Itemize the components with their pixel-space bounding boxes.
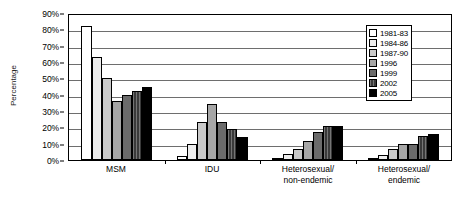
bar[interactable] — [122, 95, 132, 160]
y-axis-tick-label: 50% — [42, 74, 59, 84]
legend-item-label: 1984-86 — [380, 39, 408, 48]
legend-item[interactable]: 1999 — [369, 68, 408, 78]
legend-swatch-icon — [369, 59, 377, 67]
bar[interactable] — [187, 144, 197, 160]
bar[interactable] — [81, 26, 91, 160]
y-axis-tick-label: 90% — [42, 9, 59, 19]
bar-cluster — [69, 15, 165, 160]
y-axis-tick-label: 0% — [47, 156, 59, 166]
legend-item[interactable]: 1984-86 — [369, 38, 408, 48]
bar[interactable] — [323, 126, 333, 160]
bar[interactable] — [283, 154, 293, 160]
y-axis-tick-labels: 90%80%70%60%50%40%30%20%10%0% — [24, 14, 64, 161]
legend-item-label: 1996 — [380, 59, 397, 68]
bar-cluster-inner — [272, 15, 343, 160]
legend-item-label: 1981-83 — [380, 29, 408, 38]
x-axis-tick-label-line2: endemic — [356, 175, 452, 186]
y-axis-tick-mark — [60, 79, 64, 80]
bar[interactable] — [303, 141, 313, 160]
bar[interactable] — [398, 144, 408, 160]
y-axis-tick-mark — [60, 30, 64, 31]
x-axis-tick-label-line1: IDU — [205, 164, 220, 174]
y-axis-tick-label: 30% — [42, 107, 59, 117]
bar-cluster-inner — [81, 15, 152, 160]
bar[interactable] — [368, 158, 378, 160]
y-axis-tick-mark — [60, 63, 64, 64]
bar[interactable] — [207, 104, 217, 160]
y-axis-tick-label: 10% — [42, 140, 59, 150]
bar[interactable] — [418, 136, 428, 160]
y-axis-tick-label: 80% — [42, 25, 59, 35]
legend-swatch-icon — [369, 79, 377, 87]
x-axis-tick-label: Heterosexual/non-endemic — [260, 164, 356, 185]
bar[interactable] — [333, 126, 343, 160]
bar[interactable] — [142, 87, 152, 161]
bar[interactable] — [313, 132, 323, 160]
legend: 1981-831984-861987-901996199920022005 — [366, 25, 412, 101]
legend-item[interactable]: 1987-90 — [369, 48, 408, 58]
legend-swatch-icon — [369, 39, 377, 47]
bar[interactable] — [102, 78, 112, 160]
bar[interactable] — [177, 156, 187, 160]
y-axis-tick-mark — [60, 14, 64, 15]
x-axis-tick-label-line1: Heterosexual/ — [378, 164, 430, 174]
x-axis-tick-label-line2: non-endemic — [260, 175, 356, 186]
y-axis-tick-label: 70% — [42, 42, 59, 52]
y-axis-title: Percentage — [2, 0, 24, 170]
bar-cluster-inner — [177, 15, 248, 160]
legend-swatch-icon — [369, 69, 377, 77]
legend-item-label: 1999 — [380, 69, 397, 78]
legend-swatch-icon — [369, 49, 377, 57]
x-axis-tick-label: IDU — [164, 164, 260, 185]
y-axis-tick-mark — [60, 161, 64, 162]
x-axis-tick-labels: MSMIDUHeterosexual/non-endemicHeterosexu… — [68, 164, 452, 185]
bar-cluster — [260, 15, 356, 160]
bar[interactable] — [197, 122, 207, 160]
legend-item[interactable]: 1981-83 — [369, 28, 408, 38]
legend-item-label: 2005 — [380, 89, 397, 98]
y-axis-title-text: Percentage — [9, 65, 18, 106]
x-axis-tick-label-line1: MSM — [106, 164, 126, 174]
bar[interactable] — [217, 122, 227, 160]
bar[interactable] — [408, 144, 418, 160]
y-axis-tick-mark — [60, 144, 64, 145]
legend-item[interactable]: 1996 — [369, 58, 408, 68]
bar-chart: Percentage 90%80%70%60%50%40%30%20%10%0%… — [0, 0, 462, 203]
legend-swatch-icon — [369, 29, 377, 37]
bar[interactable] — [428, 134, 438, 160]
legend-item[interactable]: 2005 — [369, 88, 408, 98]
legend-item-label: 2002 — [380, 79, 397, 88]
bar[interactable] — [112, 101, 122, 160]
bar[interactable] — [272, 158, 282, 160]
x-axis-tick-label-line1: Heterosexual/ — [282, 164, 334, 174]
bar[interactable] — [388, 149, 398, 160]
y-axis-tick-mark — [60, 46, 64, 47]
bar[interactable] — [132, 91, 142, 160]
y-axis-tick-label: 60% — [42, 58, 59, 68]
legend-item[interactable]: 2002 — [369, 78, 408, 88]
y-axis-tick-label: 40% — [42, 91, 59, 101]
y-axis-tick-mark — [60, 112, 64, 113]
bar-cluster — [165, 15, 261, 160]
bar[interactable] — [378, 155, 388, 160]
legend-item-label: 1987-90 — [380, 49, 408, 58]
y-axis-tick-mark — [60, 128, 64, 129]
x-axis-tick-label: MSM — [68, 164, 164, 185]
y-axis-tick-mark — [60, 95, 64, 96]
bar[interactable] — [293, 149, 303, 160]
bar[interactable] — [237, 137, 247, 160]
bar[interactable] — [92, 57, 102, 160]
y-axis-tick-label: 20% — [42, 123, 59, 133]
legend-swatch-icon — [369, 89, 377, 97]
x-axis-tick-label: Heterosexual/endemic — [356, 164, 452, 185]
bar[interactable] — [227, 129, 237, 160]
